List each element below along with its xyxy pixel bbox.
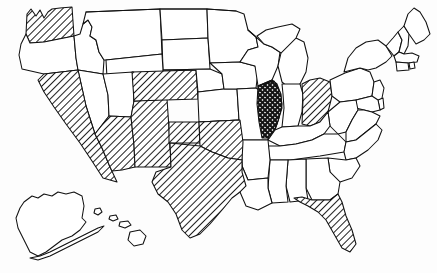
state-kansas[interactable] [198,89,239,122]
state-colorado-body[interactable] [132,70,198,101]
state-south-dakota[interactable] [162,38,210,70]
state-mississippi[interactable] [268,160,288,203]
state-alabama[interactable] [286,159,308,202]
state-connecticut[interactable] [396,62,409,71]
state-indiana[interactable] [282,84,303,127]
state-rhode-island[interactable] [409,62,415,69]
us-choropleth-map [0,0,437,273]
state-oklahoma-panhandle[interactable] [169,122,200,143]
state-new-mexico[interactable] [131,99,171,167]
state-hawaii-oahu[interactable] [109,215,118,221]
state-north-dakota[interactable] [160,9,208,40]
us-map-svg [0,0,437,273]
